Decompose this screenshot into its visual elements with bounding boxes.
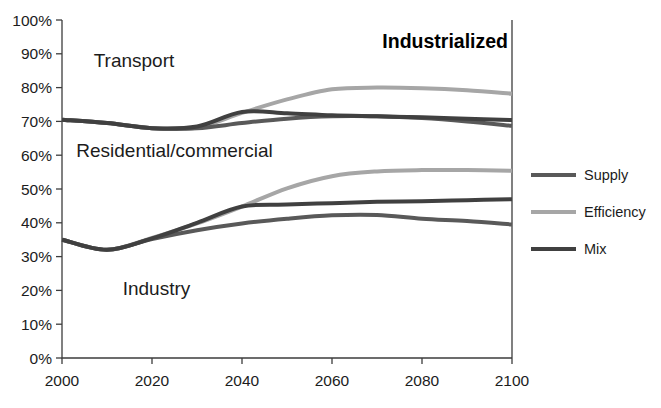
x-tick-label: 2000 bbox=[45, 372, 80, 389]
legend-label-efficiency: Efficiency bbox=[584, 204, 647, 220]
y-tick-label: 90% bbox=[21, 45, 52, 62]
series-line-efficiency-lower bbox=[62, 170, 512, 250]
chart-legend: SupplyEfficiencyMix bbox=[531, 167, 647, 257]
y-tick-label: 40% bbox=[21, 214, 52, 231]
y-tick-label: 60% bbox=[21, 147, 52, 164]
y-tick-label: 10% bbox=[21, 316, 52, 333]
chart-title: Industrialized bbox=[382, 30, 508, 52]
y-tick-label: 30% bbox=[21, 248, 52, 265]
y-tick-label: 20% bbox=[21, 282, 52, 299]
x-tick-label: 2040 bbox=[225, 372, 260, 389]
y-tick-label: 0% bbox=[30, 350, 53, 367]
series-lines bbox=[62, 88, 512, 250]
x-axis-tick-labels: 200020202040206020802100 bbox=[45, 372, 530, 389]
band-label-transport: Transport bbox=[94, 50, 175, 71]
band-label-residential-commercial: Residential/commercial bbox=[76, 140, 272, 161]
x-tick-label: 2020 bbox=[135, 372, 170, 389]
y-tick-label: 80% bbox=[21, 79, 52, 96]
legend-label-mix: Mix bbox=[584, 241, 607, 257]
axis-lines bbox=[56, 20, 512, 364]
y-tick-label: 50% bbox=[21, 181, 52, 198]
line-chart: 0%10%20%30%40%50%60%70%80%90%100% 200020… bbox=[0, 0, 661, 408]
chart-container: 0%10%20%30%40%50%60%70%80%90%100% 200020… bbox=[0, 0, 661, 408]
band-labels: TransportResidential/commercialIndustry bbox=[76, 50, 272, 299]
y-axis-tick-labels: 0%10%20%30%40%50%60%70%80%90%100% bbox=[12, 12, 52, 367]
y-tick-label: 70% bbox=[21, 113, 52, 130]
x-tick-label: 2080 bbox=[405, 372, 440, 389]
series-line-mix-lower bbox=[62, 199, 512, 250]
y-tick-label: 100% bbox=[12, 12, 52, 29]
legend-label-supply: Supply bbox=[584, 167, 629, 183]
band-label-industry: Industry bbox=[123, 278, 191, 299]
x-tick-label: 2100 bbox=[495, 372, 530, 389]
x-tick-label: 2060 bbox=[315, 372, 350, 389]
series-line-efficiency-upper bbox=[62, 88, 512, 129]
